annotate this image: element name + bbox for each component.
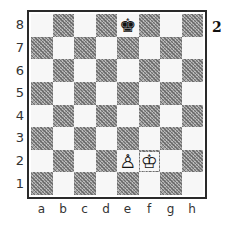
square-e7[interactable] <box>117 37 139 60</box>
square-f4[interactable] <box>139 105 161 128</box>
square-b3[interactable] <box>53 127 75 150</box>
white-pawn-icon[interactable]: ♙ <box>118 152 137 171</box>
square-b6[interactable] <box>53 59 75 82</box>
square-b2[interactable] <box>53 150 75 173</box>
square-a7[interactable] <box>31 37 53 60</box>
square-h7[interactable] <box>182 37 204 60</box>
square-g3[interactable] <box>160 127 182 150</box>
file-label-e: e <box>117 203 138 215</box>
square-c6[interactable] <box>74 59 96 82</box>
square-b1[interactable] <box>53 172 75 195</box>
square-b8[interactable] <box>53 14 75 37</box>
rank-label-5: 5 <box>14 86 26 99</box>
square-g4[interactable] <box>160 105 182 128</box>
file-label-f: f <box>139 203 160 215</box>
square-g1[interactable] <box>160 172 182 195</box>
square-f2[interactable]: ♔ <box>139 150 161 173</box>
rank-label-3: 3 <box>14 131 26 144</box>
square-c3[interactable] <box>74 127 96 150</box>
square-d6[interactable] <box>96 59 118 82</box>
square-a8[interactable] <box>31 14 53 37</box>
square-b7[interactable] <box>53 37 75 60</box>
diagram-number: 2 <box>212 19 222 35</box>
square-g7[interactable] <box>160 37 182 60</box>
square-a6[interactable] <box>31 59 53 82</box>
square-e1[interactable] <box>117 172 139 195</box>
square-h4[interactable] <box>182 105 204 128</box>
square-a1[interactable] <box>31 172 53 195</box>
file-label-h: h <box>182 203 203 215</box>
file-label-a: a <box>31 203 52 215</box>
rank-label-2: 2 <box>14 154 26 167</box>
square-d8[interactable] <box>96 14 118 37</box>
rank-label-4: 4 <box>14 109 26 122</box>
black-king-icon[interactable]: ♚ <box>118 16 137 35</box>
square-e5[interactable] <box>117 82 139 105</box>
square-f8[interactable] <box>139 14 161 37</box>
square-c2[interactable] <box>74 150 96 173</box>
square-h5[interactable] <box>182 82 204 105</box>
rank-label-7: 7 <box>14 41 26 54</box>
rank-label-8: 8 <box>14 18 26 31</box>
square-g6[interactable] <box>160 59 182 82</box>
square-e8[interactable]: ♚ <box>117 14 139 37</box>
white-king-icon[interactable]: ♔ <box>140 152 159 171</box>
square-g8[interactable] <box>160 14 182 37</box>
square-h6[interactable] <box>182 59 204 82</box>
square-e4[interactable] <box>117 105 139 128</box>
file-label-g: g <box>160 203 181 215</box>
square-f1[interactable] <box>139 172 161 195</box>
square-h1[interactable] <box>182 172 204 195</box>
square-c4[interactable] <box>74 105 96 128</box>
square-a4[interactable] <box>31 105 53 128</box>
file-label-b: b <box>53 203 74 215</box>
square-e2[interactable]: ♙ <box>117 150 139 173</box>
square-d7[interactable] <box>96 37 118 60</box>
square-h3[interactable] <box>182 127 204 150</box>
square-e3[interactable] <box>117 127 139 150</box>
square-a5[interactable] <box>31 82 53 105</box>
square-b4[interactable] <box>53 105 75 128</box>
square-f7[interactable] <box>139 37 161 60</box>
square-d2[interactable] <box>96 150 118 173</box>
square-e6[interactable] <box>117 59 139 82</box>
square-g2[interactable] <box>160 150 182 173</box>
square-d3[interactable] <box>96 127 118 150</box>
square-d1[interactable] <box>96 172 118 195</box>
file-label-c: c <box>74 203 95 215</box>
file-label-d: d <box>96 203 117 215</box>
square-c1[interactable] <box>74 172 96 195</box>
square-h8[interactable] <box>182 14 204 37</box>
square-c8[interactable] <box>74 14 96 37</box>
square-d4[interactable] <box>96 105 118 128</box>
square-a3[interactable] <box>31 127 53 150</box>
square-f5[interactable] <box>139 82 161 105</box>
square-b5[interactable] <box>53 82 75 105</box>
rank-label-1: 1 <box>14 177 26 190</box>
square-a2[interactable] <box>31 150 53 173</box>
square-c5[interactable] <box>74 82 96 105</box>
square-f3[interactable] <box>139 127 161 150</box>
rank-label-6: 6 <box>14 64 26 77</box>
square-f6[interactable] <box>139 59 161 82</box>
square-d5[interactable] <box>96 82 118 105</box>
square-g5[interactable] <box>160 82 182 105</box>
chess-board: ♚♙♔ <box>31 14 203 195</box>
square-c7[interactable] <box>74 37 96 60</box>
square-h2[interactable] <box>182 150 204 173</box>
